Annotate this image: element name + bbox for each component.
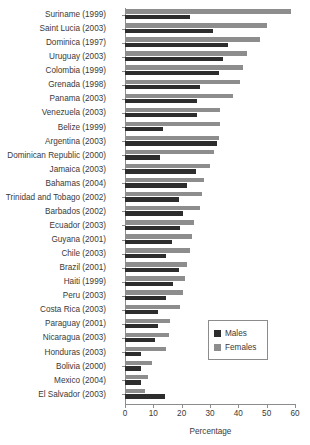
chart-row: Venezuela (2003)	[125, 106, 295, 120]
x-tick-label: 0	[110, 409, 140, 418]
legend-label-females: Females	[225, 343, 256, 352]
bar-females	[125, 333, 169, 337]
bar-males	[125, 71, 219, 75]
category-label: Jamaica (2003)	[0, 164, 106, 175]
chart-row: Dominican Republic (2000)	[125, 149, 295, 163]
chart-row: Barbados (2002)	[125, 205, 295, 219]
category-label: Mexico (2004)	[0, 375, 106, 386]
category-label: Bahamas (2004)	[0, 178, 106, 189]
bar-females	[125, 136, 219, 140]
legend-swatch-males-icon	[214, 330, 221, 337]
bar-females	[125, 248, 190, 252]
chart-row: Mexico (2004)	[125, 374, 295, 388]
bar-females	[125, 262, 187, 266]
x-tick	[153, 404, 154, 408]
x-axis-title: Percentage	[125, 427, 296, 436]
category-label: Colombia (1999)	[0, 65, 106, 76]
chart-row: Ecuador (2003)	[125, 219, 295, 233]
bar-females	[125, 276, 185, 280]
bar-females	[125, 347, 166, 351]
legend-swatch-females-icon	[214, 344, 221, 351]
chart-row: Argentina (2003)	[125, 135, 295, 149]
bar-females	[125, 361, 152, 365]
legend-item-females: Females	[214, 340, 267, 354]
category-label: Panama (2003)	[0, 93, 106, 104]
x-tick	[267, 404, 268, 408]
category-label: Dominica (1997)	[0, 37, 106, 48]
bar-females	[125, 80, 240, 84]
category-label: Haiti (1999)	[0, 276, 106, 287]
bar-males	[125, 155, 160, 159]
category-label: Costa Rica (2003)	[0, 304, 106, 315]
bar-males	[125, 268, 179, 272]
bar-females	[125, 122, 220, 126]
category-label: Trinidad and Tobago (2002)	[0, 192, 106, 203]
category-label: Grenada (1998)	[0, 79, 106, 90]
legend-label-males: Males	[225, 329, 247, 338]
x-tick	[210, 404, 211, 408]
bar-males	[125, 29, 213, 33]
bar-males	[125, 380, 141, 384]
bar-females	[125, 290, 183, 294]
bar-females	[125, 51, 247, 55]
chart-row: Bolivia (2000)	[125, 360, 295, 374]
chart-row: Grenada (1998)	[125, 78, 295, 92]
bar-males	[125, 282, 173, 286]
bar-females	[125, 94, 233, 98]
chart-row: Brazil (2001)	[125, 261, 295, 275]
bar-males	[125, 113, 197, 117]
bar-males	[125, 394, 165, 398]
bar-females	[125, 305, 180, 309]
bar-males	[125, 99, 197, 103]
category-label: El Salvador (2003)	[0, 389, 106, 400]
category-label: Guyana (2001)	[0, 234, 106, 245]
bar-females	[125, 234, 192, 238]
bar-females	[125, 108, 220, 112]
x-tick	[182, 404, 183, 408]
x-tick-label: 20	[167, 409, 197, 418]
bar-males	[125, 240, 172, 244]
bar-males	[125, 169, 196, 173]
bar-chart: Suriname (1999)Saint Lucia (2003)Dominic…	[0, 0, 310, 445]
bar-males	[125, 366, 141, 370]
bar-males	[125, 254, 166, 258]
chart-row: Saint Lucia (2003)	[125, 22, 295, 36]
category-label: Argentina (2003)	[0, 136, 106, 147]
category-label: Ecuador (2003)	[0, 220, 106, 231]
category-label: Brazil (2001)	[0, 262, 106, 273]
bar-females	[125, 164, 210, 168]
chart-row: Dominica (1997)	[125, 36, 295, 50]
x-tick-label: 40	[223, 409, 253, 418]
x-tick	[295, 404, 296, 408]
bar-females	[125, 23, 267, 27]
category-label: Bolivia (2000)	[0, 361, 106, 372]
bar-females	[125, 206, 200, 210]
chart-row: Guyana (2001)	[125, 233, 295, 247]
category-label: Nicaragua (2003)	[0, 332, 106, 343]
bar-females	[125, 178, 204, 182]
x-tick	[238, 404, 239, 408]
bar-males	[125, 310, 158, 314]
bar-males	[125, 296, 166, 300]
category-label: Saint Lucia (2003)	[0, 23, 106, 34]
chart-row: Uruguay (2003)	[125, 50, 295, 64]
legend-item-males: Males	[214, 326, 267, 340]
category-label: Suriname (1999)	[0, 9, 106, 20]
bar-females	[125, 65, 243, 69]
category-label: Peru (2003)	[0, 290, 106, 301]
x-tick-label: 10	[138, 409, 168, 418]
category-label: Belize (1999)	[0, 122, 106, 133]
category-label: Chile (2003)	[0, 248, 106, 259]
bar-males	[125, 226, 180, 230]
chart-row: Trinidad and Tobago (2002)	[125, 191, 295, 205]
bar-females	[125, 150, 214, 154]
chart-row: Bahamas (2004)	[125, 177, 295, 191]
chart-legend: Males Females	[208, 320, 268, 360]
chart-row: Costa Rica (2003)	[125, 303, 295, 317]
chart-row: El Salvador (2003)	[125, 388, 295, 402]
bar-females	[125, 319, 170, 323]
x-tick-label: 50	[252, 409, 282, 418]
bar-males	[125, 15, 190, 19]
bar-males	[125, 197, 179, 201]
bar-males	[125, 352, 141, 356]
